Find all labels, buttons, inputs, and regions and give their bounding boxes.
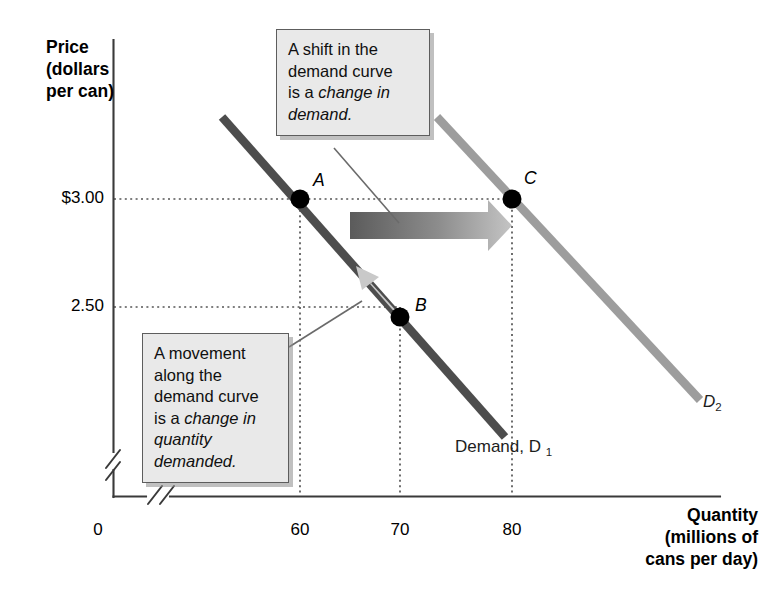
- point-c-marker: [503, 190, 522, 209]
- shift-callout-connector: [334, 148, 399, 223]
- x-tick-label-80: 80: [492, 520, 532, 540]
- x-tick-label-60: 60: [280, 520, 320, 540]
- movement-along-curve-arrow: [356, 266, 399, 316]
- movement-callout-line-4: is a change in: [154, 408, 277, 430]
- y-axis-title-line-1: Price: [46, 36, 114, 58]
- movement-callout-line-5-italic: quantity: [154, 430, 212, 448]
- demand-curve-d2: [437, 117, 700, 400]
- x-tick-label-70: 70: [380, 520, 420, 540]
- demand-curve-d2-label-text: D: [703, 392, 715, 411]
- demand-curve-d2-label-subscript: 2: [715, 401, 721, 413]
- movement-callout-line-6: demanded.: [154, 451, 277, 473]
- data-points: [291, 190, 522, 327]
- y-axis-title-line-2: (dollars: [46, 58, 114, 80]
- demand-curve-d2-label: D2: [703, 392, 722, 413]
- shift-callout: A shift in the demand curve is a change …: [276, 29, 430, 136]
- y-axis-title: Price (dollars per can): [46, 36, 114, 102]
- demand-curve-d1-label: Demand, D 1: [455, 437, 552, 458]
- movement-callout-line-2: along the: [154, 365, 277, 387]
- x-axis-title: Quantity (millions of cans per day): [572, 504, 758, 570]
- movement-callout-line-3: demand curve: [154, 386, 277, 408]
- demand-curve-d1-label-subscript: 1: [546, 446, 552, 458]
- shift-arrow: [350, 200, 512, 251]
- point-a-label: A: [313, 170, 325, 191]
- shift-callout-line-3-plain: is a: [288, 83, 318, 101]
- point-c-label: C: [524, 168, 537, 189]
- shift-callout-line-3-italic: change in: [318, 83, 390, 101]
- movement-callout-line-4-italic: change in: [184, 409, 256, 427]
- y-axis-title-line-3: per can): [46, 80, 114, 102]
- y-tick-label-250: 2.50: [28, 296, 104, 316]
- shift-callout-line-2: demand curve: [288, 61, 418, 83]
- x-axis-title-line-1: Quantity: [572, 504, 758, 526]
- movement-callout-line-1: A movement: [154, 343, 277, 365]
- movement-callout: A movement along the demand curve is a c…: [142, 333, 289, 483]
- shift-callout-line-4: demand.: [288, 104, 418, 126]
- x-break-mark-2: [160, 486, 174, 504]
- demand-curve-d1-label-text: Demand, D: [455, 437, 541, 456]
- shift-callout-line-4-italic: demand.: [288, 105, 352, 123]
- figure-canvas: Price (dollars per can) Quantity (millio…: [0, 0, 765, 610]
- shift-callout-line-3: is a change in: [288, 82, 418, 104]
- movement-callout-line-5: quantity: [154, 429, 277, 451]
- point-b-label: B: [415, 295, 427, 316]
- point-b-marker: [391, 308, 410, 327]
- x-break-mark-1: [148, 486, 162, 504]
- callout-connectors: [289, 148, 399, 347]
- y-tick-label-300: $3.00: [28, 188, 104, 208]
- x-axis-title-line-2: (millions of: [572, 526, 758, 548]
- movement-callout-line-4-plain: is a: [154, 409, 184, 427]
- x-origin-label: 0: [83, 520, 113, 540]
- x-axis-title-line-3: cans per day): [572, 548, 758, 570]
- point-a-marker: [291, 190, 310, 209]
- movement-callout-line-6-italic: demanded.: [154, 452, 237, 470]
- shift-callout-line-1: A shift in the: [288, 39, 418, 61]
